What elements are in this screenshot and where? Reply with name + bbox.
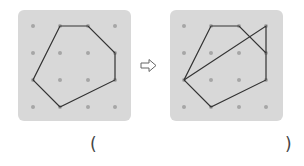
answer-close-paren: ) (285, 134, 292, 154)
left-grid-dots (31, 24, 117, 109)
right-hexagon (184, 26, 266, 107)
left-hexagon (33, 26, 115, 107)
right-extra-segments (184, 26, 266, 80)
answer-open-paren: ( (90, 134, 97, 154)
figure-overlay (0, 0, 304, 166)
right-grid-dots (182, 24, 268, 109)
right-arrow-icon (141, 60, 156, 72)
